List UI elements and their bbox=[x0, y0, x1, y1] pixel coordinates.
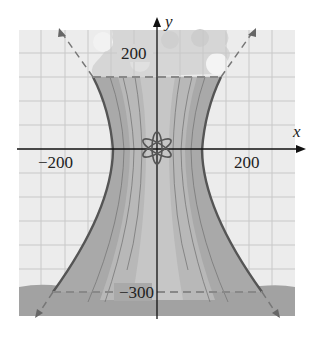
y-tick-200: 200 bbox=[121, 44, 147, 63]
y-tick-neg300: −300 bbox=[119, 283, 154, 302]
y-axis-label: y bbox=[163, 12, 173, 31]
x-axis-label: x bbox=[292, 122, 301, 141]
hyperbola-diagram: y x 200 −300 −200 200 bbox=[0, 0, 323, 337]
x-tick-neg200: −200 bbox=[38, 153, 73, 172]
x-tick-200: 200 bbox=[234, 153, 260, 172]
y-axis-arrow-icon bbox=[153, 17, 161, 27]
x-axis-arrow-icon bbox=[296, 145, 306, 153]
